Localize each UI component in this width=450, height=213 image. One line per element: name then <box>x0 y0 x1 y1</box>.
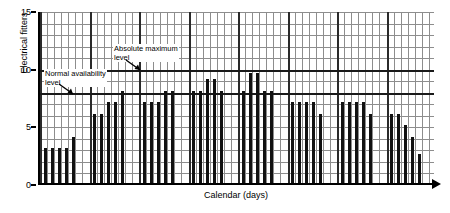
bar <box>305 102 308 183</box>
bar <box>164 91 167 183</box>
bar <box>58 148 61 183</box>
bar-series <box>40 12 434 183</box>
bar <box>143 102 146 183</box>
bar <box>107 102 110 183</box>
bar <box>341 102 344 183</box>
bar <box>114 102 117 183</box>
y-axis-tick-mark <box>31 69 36 71</box>
y-axis-tick-label: 15 <box>21 8 31 17</box>
bar <box>44 148 47 183</box>
bar <box>355 102 358 183</box>
x-axis-arrow-icon <box>432 179 441 189</box>
bar <box>369 114 372 183</box>
bar <box>348 102 351 183</box>
bar <box>93 114 96 183</box>
bar <box>65 148 68 183</box>
bar <box>206 79 209 183</box>
bar <box>312 102 315 183</box>
bar <box>51 148 54 183</box>
x-axis-title: Calendar (days) <box>38 190 434 200</box>
bar <box>397 114 400 183</box>
y-axis-tick-mark <box>31 11 36 13</box>
bar <box>291 102 294 183</box>
bar <box>390 114 393 183</box>
bar <box>121 91 124 183</box>
chart-figure: Electrical fitters 051015 Calendar (days… <box>0 0 450 213</box>
annotation-normal-line1: Normal availability <box>45 69 106 78</box>
bar <box>362 102 365 183</box>
y-axis-tick-mark <box>31 126 36 128</box>
bar <box>213 79 216 183</box>
bar <box>220 91 223 183</box>
bar <box>249 73 252 183</box>
bar <box>263 91 266 183</box>
annotation-absolute-arrow-icon <box>126 60 148 74</box>
bar <box>100 114 103 183</box>
bar <box>150 102 153 183</box>
bar <box>242 91 245 183</box>
bar <box>298 102 301 183</box>
bar <box>418 154 421 183</box>
bar <box>256 73 259 183</box>
bar <box>192 91 195 183</box>
bar <box>199 91 202 183</box>
bar <box>157 102 160 183</box>
plot-area <box>38 12 434 185</box>
bar <box>411 137 414 183</box>
y-axis-tick-labels: 051015 <box>0 0 36 185</box>
bar <box>404 125 407 183</box>
bar <box>171 91 174 183</box>
annotation-absolute-line1: Absolute maximum <box>114 44 178 53</box>
bar <box>319 114 322 183</box>
y-axis-tick-mark <box>31 184 36 186</box>
bar <box>72 137 75 183</box>
bar <box>270 91 273 183</box>
y-axis-tick-label: 10 <box>21 65 31 74</box>
annotation-normal-arrow-icon <box>59 84 81 98</box>
